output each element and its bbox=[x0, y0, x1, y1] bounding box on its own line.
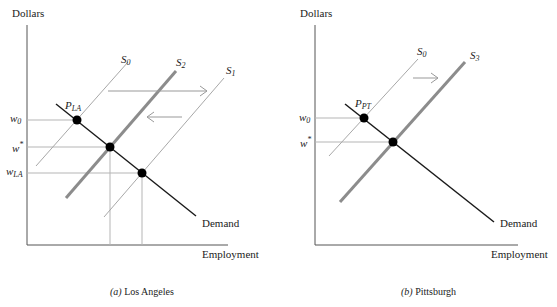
point-pla bbox=[73, 116, 82, 125]
x-axis-label-b: Employment bbox=[491, 249, 548, 260]
wage-label-wstar-b: w* bbox=[300, 136, 311, 149]
supply-label-s0-b: S0 bbox=[417, 46, 427, 59]
y-axis-label-a: Dollars bbox=[12, 8, 44, 19]
wage-label-w0-a: w0 bbox=[10, 113, 21, 126]
y-axis-label-b: Dollars bbox=[300, 8, 332, 19]
supply-s0-b bbox=[329, 59, 418, 156]
supply-s2-a bbox=[66, 71, 176, 198]
arrow-right-icon bbox=[413, 73, 438, 83]
demand-label-b: Demand bbox=[500, 218, 537, 229]
caption-a: (a) Los Angeles bbox=[110, 286, 174, 297]
caption-b: (b) Pittsburgh bbox=[401, 286, 456, 297]
supply-label-s1: S1 bbox=[226, 65, 236, 78]
wage-label-wstar-a: w* bbox=[12, 141, 23, 154]
point-wla bbox=[138, 169, 147, 178]
arrow-left-icon bbox=[147, 112, 182, 122]
supply-label-s0-a: S0 bbox=[121, 54, 131, 67]
supply-label-s2: S2 bbox=[176, 57, 186, 70]
x-axis-label-a: Employment bbox=[202, 249, 259, 260]
supply-s3-b bbox=[340, 62, 465, 202]
point-wstar-b bbox=[389, 138, 398, 147]
wage-label-w0-b: w0 bbox=[299, 112, 310, 125]
labor-market-diagram bbox=[0, 0, 557, 307]
point-ppt bbox=[360, 114, 369, 123]
point-label-ppt: PPT bbox=[355, 98, 371, 111]
demand-curve-b bbox=[345, 104, 494, 222]
demand-label-a: Demand bbox=[202, 218, 239, 229]
supply-s1-a bbox=[104, 78, 224, 217]
point-wstar-a bbox=[106, 143, 115, 152]
point-label-pla: PLA bbox=[65, 100, 81, 113]
supply-label-s3: S3 bbox=[470, 50, 480, 63]
wage-label-wla: wLA bbox=[6, 166, 23, 179]
